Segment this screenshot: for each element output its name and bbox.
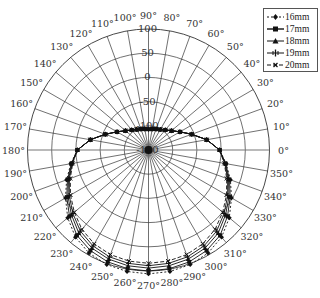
angle-tick-label: 180° [2,145,25,156]
angle-tick-label: 60° [208,28,225,39]
angle-tick-label: 190° [4,168,27,179]
radial-tick-label: -50 [139,96,155,107]
legend-item-20mm: 20mm [267,59,315,71]
cross-marker-icon [267,48,284,58]
legend: 16mm 17mm 18mm 19mm 20mm [263,8,318,72]
angle-tick-label: 80° [164,12,181,23]
angle-tick-label: 140° [34,58,57,69]
angle-tick-label: 40° [243,58,260,69]
angle-tick-label: 160° [10,98,33,109]
legend-item-18mm: 18mm [267,35,315,47]
angle-tick-label: 350° [270,168,293,179]
angle-tick-label: 310° [224,248,247,259]
angle-tick-label: 120° [70,28,93,39]
angle-tick-label: 200° [10,191,33,202]
legend-label: 18mm [285,36,309,46]
angle-tick-label: 90° [140,10,157,21]
angle-tick-label: 230° [50,248,73,259]
radial-tick-label: 50 [141,47,154,58]
angle-tick-label: 10° [273,121,290,132]
angle-tick-label: 270° [137,280,160,291]
angle-tick-label: 20° [267,98,284,109]
angle-tick-label: 220° [34,231,57,242]
angle-tick-label: 250° [91,271,114,282]
angle-tick-label: 130° [50,41,73,52]
angle-tick-label: 170° [4,121,27,132]
legend-item-19mm: 19mm [267,47,315,59]
legend-item-17mm: 17mm [267,23,315,35]
angle-tick-label: 330° [254,212,277,223]
angle-tick-label: 320° [240,231,263,242]
angle-tick-label: 110° [91,18,114,29]
angle-tick-label: 260° [114,277,137,288]
angle-tick-label: 290° [183,271,206,282]
x-marker-icon [267,60,284,70]
angle-tick-label: 340° [264,191,287,202]
angle-tick-label: 100° [114,12,137,23]
diamond-marker-icon [267,12,284,22]
square-marker-icon [267,24,284,34]
angle-tick-label: 0° [278,145,289,156]
legend-item-16mm: 16mm [267,11,315,23]
center-point [145,146,153,154]
legend-label: 20mm [285,60,309,70]
angle-tick-label: 300° [205,261,228,272]
angle-tick-label: 240° [70,261,93,272]
triangle-marker-icon [267,36,284,46]
angle-tick-label: 30° [257,77,274,88]
radial-tick-label: 100 [138,23,157,34]
angle-tick-label: 210° [20,212,43,223]
legend-label: 17mm [285,24,309,34]
angle-tick-label: 70° [186,18,203,29]
legend-label: 16mm [285,12,309,22]
angle-tick-label: 150° [20,77,43,88]
angle-tick-label: 50° [227,41,244,52]
radial-tick-label: 0 [144,71,150,82]
angle-tick-label: 280° [160,277,183,288]
legend-label: 19mm [285,48,309,58]
